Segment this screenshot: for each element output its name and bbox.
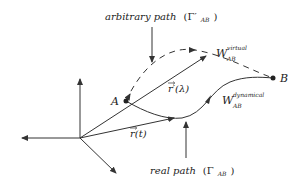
label-arbitrary-path: arbitrary path (Γ′ AB ): [105, 6, 217, 25]
point-b-dot: [271, 76, 276, 81]
svg-text:virtual: virtual: [227, 44, 247, 51]
label-w-dynamical: W dynamical AB: [222, 91, 264, 109]
point-a-dot: [124, 99, 129, 104]
coordinate-axes: [22, 79, 116, 173]
label-r-t: r(t): [130, 127, 147, 140]
label-point-b: B: [279, 72, 288, 85]
svg-text:r′(λ): r′(λ): [168, 83, 189, 94]
path-diagram: A B arbitrary path (Γ′ AB ) real path (Γ…: [0, 0, 304, 188]
axis-down-right: [80, 138, 116, 173]
label-real-path: real path (Γ AB ): [150, 160, 234, 179]
vector-r-t: [80, 118, 174, 138]
svg-text:AB: AB: [226, 55, 236, 62]
svg-text:AB: AB: [232, 102, 242, 109]
label-w-virtual: W virtual AB: [216, 44, 247, 62]
arbitrary-path-direction-arrow: [189, 47, 196, 53]
svg-text:r(t): r(t): [130, 128, 147, 139]
svg-text:dynamical: dynamical: [233, 91, 264, 99]
label-r-prime-lambda: r′(λ): [168, 82, 189, 95]
label-point-a: A: [110, 95, 119, 108]
vector-r-prime-lambda: [80, 56, 206, 138]
